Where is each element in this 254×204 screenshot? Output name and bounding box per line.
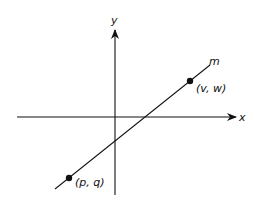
- point-label-v-w: (v, w): [196, 82, 226, 95]
- point-v-w: [187, 78, 193, 84]
- coordinate-diagram: y x m (v, w) (p, q): [0, 0, 254, 204]
- point-p-q: [66, 175, 72, 181]
- y-axis-label: y: [110, 14, 118, 27]
- x-axis-label: x: [238, 111, 246, 124]
- line-label: m: [209, 55, 220, 68]
- point-label-p-q: (p, q): [75, 176, 105, 189]
- line-m: [55, 65, 210, 189]
